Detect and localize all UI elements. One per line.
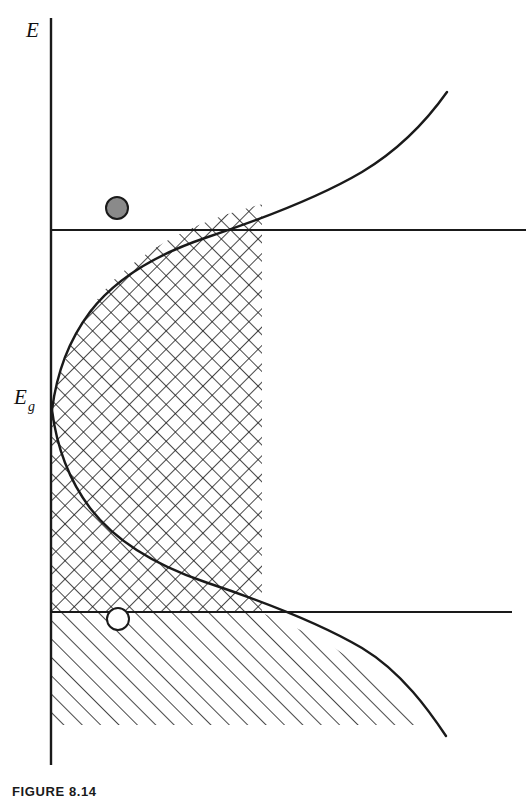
crosshatched-region (52, 204, 262, 612)
band-gap-label-base: E (13, 385, 27, 409)
hatched-region (52, 612, 440, 740)
energy-axis-label: E (25, 18, 39, 42)
electron-marker (106, 197, 128, 219)
band-diagram-chart: E E g (0, 0, 526, 800)
figure-container: E E g FIGURE 8.14 (0, 0, 526, 800)
figure-caption: FIGURE 8.14 (12, 784, 97, 799)
band-gap-label-subscript: g (28, 399, 35, 414)
hole-marker (107, 608, 129, 630)
